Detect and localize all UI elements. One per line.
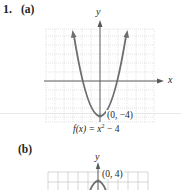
- vertex-b-label: (0, 4): [101, 169, 124, 179]
- vertex-a-label: (0, −4): [106, 110, 134, 120]
- vertex-a-point: [98, 114, 101, 117]
- part-b-label: (b): [18, 143, 32, 155]
- y-axis-arrow-icon: [98, 20, 103, 27]
- function-label-main: f(x) = x: [73, 124, 102, 134]
- graph-b-y-label: y: [95, 151, 99, 162]
- graph-a: [0, 0, 181, 190]
- graph-b-y-axis-arrow-icon: [96, 162, 100, 169]
- function-label: f(x) = x2 − 4: [72, 123, 120, 134]
- graph-a-y-label: y: [96, 6, 100, 17]
- graph-a-x-label: x: [168, 74, 172, 85]
- function-label-suffix: − 4: [105, 124, 120, 134]
- curve-arrow-left-icon: [71, 30, 77, 38]
- graph-a-axes: [44, 24, 160, 122]
- vertex-b-point: [97, 180, 100, 183]
- x-axis-arrow-icon: [157, 79, 164, 84]
- curve-arrow-right-icon: [124, 30, 130, 38]
